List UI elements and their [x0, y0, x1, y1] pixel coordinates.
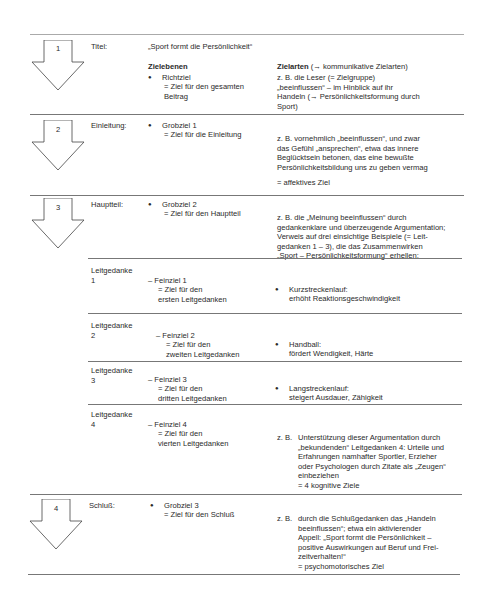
step-number-4: 4 [28, 504, 84, 514]
section-label-einleitung: Einleitung: [91, 121, 126, 131]
leitgedanke-label-2: Leitgedanke 2 [91, 321, 132, 340]
leitgedanke-label-1: Leitgedanke 1 [91, 266, 132, 285]
result-2: = affektives Ziel [277, 178, 330, 188]
feinziel-desc-3: = Ziel für den dritten Leitgedanken [158, 384, 227, 403]
goal-desc-2: = Ziel für die Einleitung [164, 130, 241, 140]
top-rule [30, 34, 464, 35]
example-prefix-l4: z. B. [277, 433, 292, 443]
divider-1 [30, 114, 464, 115]
section-label-hauptteil: Hauptteil: [91, 200, 123, 210]
feinziel-desc-2: = Ziel für den zweiten Leitgedanken [166, 340, 239, 359]
divider-4 [30, 494, 462, 495]
column-header-zielebenen: Zielebenen [148, 62, 188, 72]
zielarten-bold: Zielarten [277, 62, 309, 71]
document-title: „Sport formt die Persönlichkeit“ [148, 42, 252, 52]
example-4: durch die Schlußgedanken das „Handeln be… [298, 514, 439, 562]
leitgedanke-label-3: Leitgedanke 3 [91, 366, 132, 385]
result-4: = psychomotorisches Ziel [298, 562, 384, 572]
step-number-1: 1 [30, 44, 86, 54]
goal-desc-1: = Ziel für den gesamten Beitrag [164, 82, 244, 101]
example-prefix-4: z. B. [277, 514, 292, 524]
example-text-l1: erhöht Reaktionsgeschwindigkeit [289, 294, 400, 304]
divider-2 [30, 195, 464, 196]
zielarten-rest: (→ kommunikative Zielarten) [309, 62, 408, 71]
section-label-titel: Titel: [91, 42, 107, 52]
leitgedanke-label-4: Leitgedanke 4 [91, 410, 132, 429]
divider-3 [88, 258, 462, 259]
example-text-l2: fördert Wendigkeit, Härte [289, 349, 373, 359]
section-label-schluss: Schluß: [89, 501, 115, 511]
goal-desc-4: = Ziel für den Schluß [164, 510, 234, 520]
divider-l2 [88, 361, 462, 362]
result-l4: = 4 kognitive Ziele [298, 481, 359, 491]
step-number-3: 3 [30, 203, 86, 213]
bottom-rule [28, 574, 460, 575]
divider-l3 [88, 404, 462, 405]
example-3: z. B. die „Meinung beeinflussen“ durch g… [277, 213, 445, 261]
feinziel-desc-1: = Ziel für den ersten Leitgedanken [158, 285, 227, 304]
example-2: z. B. vornehmlich „beeinflussen“, und zw… [277, 134, 428, 172]
example-l4: Unterstützung dieser Argumentation durch… [298, 433, 446, 481]
example-1: z. B. die Leser (= Zielgruppe) „beeinflu… [277, 73, 420, 111]
divider-l1 [88, 313, 462, 314]
example-text-l3: steigert Ausdauer, Zähigkeit [289, 393, 383, 403]
column-header-zielarten: Zielarten (→ kommunikative Zielarten) [277, 62, 408, 72]
step-number-2: 2 [30, 125, 86, 135]
feinziel-desc-4: = Ziel für den vierten Leitgedanken [158, 429, 229, 448]
goal-desc-3: = Ziel für den Hauptteil [164, 209, 241, 219]
